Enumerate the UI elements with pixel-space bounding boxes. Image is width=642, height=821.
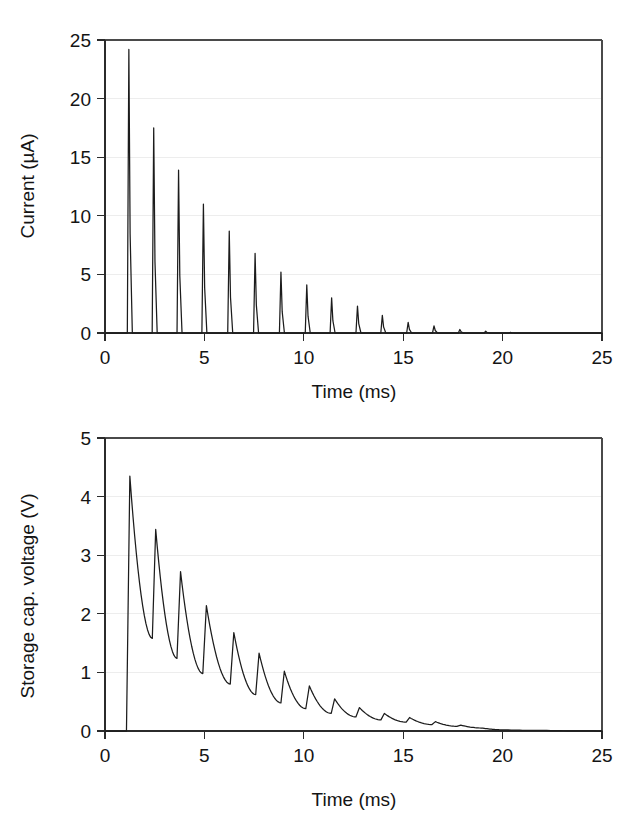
svg-text:0: 0 bbox=[100, 745, 111, 766]
panel-storage-cap-voltage-vs-time: 0510152025012345 Time (ms) Storage cap. … bbox=[0, 410, 642, 821]
current-axis-tick-labels: 05101520250510152025 bbox=[70, 30, 613, 368]
current-x-axis-title: Time (ms) bbox=[312, 381, 397, 402]
voltage-axis-tick-labels: 0510152025012345 bbox=[80, 428, 612, 766]
svg-text:25: 25 bbox=[591, 347, 612, 368]
svg-text:10: 10 bbox=[293, 745, 314, 766]
svg-text:2: 2 bbox=[80, 604, 91, 625]
svg-text:5: 5 bbox=[80, 428, 91, 449]
current-plot-svg: 05101520250510152025 Time (ms) Current (… bbox=[0, 0, 642, 410]
svg-text:4: 4 bbox=[80, 487, 91, 508]
svg-text:15: 15 bbox=[393, 347, 414, 368]
svg-text:25: 25 bbox=[70, 30, 91, 51]
svg-text:10: 10 bbox=[70, 206, 91, 227]
svg-text:0: 0 bbox=[100, 347, 111, 368]
svg-text:0: 0 bbox=[80, 323, 91, 344]
svg-text:15: 15 bbox=[393, 745, 414, 766]
svg-text:3: 3 bbox=[80, 545, 91, 566]
current-axis-ticks bbox=[97, 40, 602, 341]
voltage-plot-svg: 0510152025012345 Time (ms) Storage cap. … bbox=[0, 410, 642, 821]
svg-text:25: 25 bbox=[591, 745, 612, 766]
svg-text:0: 0 bbox=[80, 721, 91, 742]
panel-current-vs-time: 05101520250510152025 Time (ms) Current (… bbox=[0, 0, 642, 410]
svg-text:15: 15 bbox=[70, 147, 91, 168]
figure-two-panel-plot: 05101520250510152025 Time (ms) Current (… bbox=[0, 0, 642, 821]
svg-text:5: 5 bbox=[199, 347, 210, 368]
voltage-trace-line bbox=[105, 476, 602, 731]
voltage-axis-ticks bbox=[97, 438, 602, 739]
svg-text:20: 20 bbox=[492, 347, 513, 368]
voltage-x-axis-title: Time (ms) bbox=[312, 789, 397, 810]
current-plot-frame bbox=[105, 40, 602, 333]
voltage-gridlines bbox=[105, 438, 602, 672]
svg-text:20: 20 bbox=[70, 89, 91, 110]
svg-text:10: 10 bbox=[293, 347, 314, 368]
current-trace-line bbox=[105, 49, 602, 333]
svg-text:5: 5 bbox=[199, 745, 210, 766]
svg-text:5: 5 bbox=[80, 264, 91, 285]
voltage-y-axis-title: Storage cap. voltage (V) bbox=[17, 494, 38, 699]
current-y-axis-title: Current (µA) bbox=[17, 134, 38, 239]
svg-text:1: 1 bbox=[80, 662, 91, 683]
svg-text:20: 20 bbox=[492, 745, 513, 766]
